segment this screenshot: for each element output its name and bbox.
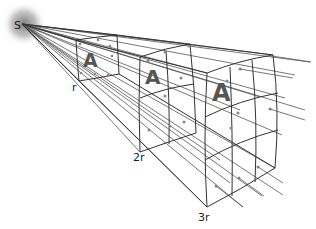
source-label: S bbox=[14, 19, 21, 32]
plate-letter-2r: A bbox=[145, 65, 161, 89]
distance-label-r: r bbox=[72, 81, 77, 94]
plate-2r: A bbox=[139, 44, 196, 152]
distance-label-3r: 3r bbox=[198, 211, 210, 224]
distance-label-2r: 2r bbox=[133, 151, 145, 164]
inverse-square-diagram: A A A bbox=[0, 0, 316, 229]
plate-letter-3r: A bbox=[212, 79, 231, 107]
plate-letter-r: A bbox=[83, 49, 98, 71]
diagram-canvas: A A A bbox=[0, 0, 316, 229]
